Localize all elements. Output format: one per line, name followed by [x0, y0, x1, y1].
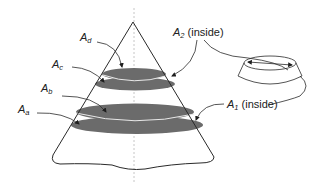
inset-top-ellipse	[244, 56, 296, 70]
lower-disk-pair	[71, 104, 203, 135]
cone-diagram: Ad Ac Ab Aa A2 (inside) A1 (inside)	[0, 0, 314, 187]
cone-outline	[52, 22, 214, 170]
inset-frustum	[204, 40, 306, 105]
arrow-a-c	[72, 67, 104, 82]
cone-base	[52, 155, 214, 170]
label-a-d: Ad	[79, 31, 92, 45]
label-a-2-inside: A2 (inside)	[172, 26, 224, 40]
inset-bottom-curve	[238, 63, 302, 84]
label-a-c: Ac	[51, 58, 63, 72]
label-a-b: Ab	[40, 82, 53, 96]
arrow-a-2	[172, 40, 197, 76]
label-a-1-inside: A1 (inside)	[226, 98, 278, 112]
label-a-a: Aa	[17, 103, 30, 117]
arrow-a-1	[196, 104, 224, 120]
